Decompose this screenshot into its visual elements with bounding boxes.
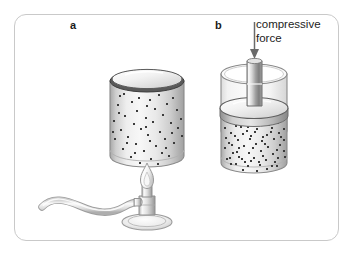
piston-rod-cap	[247, 58, 262, 63]
compressive-force-caption: compressive force	[256, 18, 344, 45]
panel-label-a: a	[70, 19, 76, 31]
burner-base	[122, 214, 172, 230]
bunsen-burner	[42, 163, 172, 230]
piston-rod	[247, 58, 262, 106]
force-caption-line-2: force	[256, 32, 344, 46]
panel-label-b: b	[215, 19, 222, 31]
gas-cylinder-a	[110, 69, 184, 167]
force-caption-line-1: compressive	[256, 18, 344, 32]
figure-root: a b compressive force	[0, 0, 353, 255]
burner-hose-nozzle	[134, 199, 141, 207]
force-arrow-head	[250, 49, 259, 59]
cylinder-a-body	[110, 81, 184, 167]
